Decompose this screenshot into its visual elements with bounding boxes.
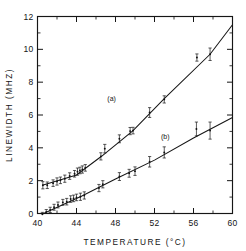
data-point: [81, 169, 83, 171]
data-point: [209, 130, 211, 132]
data-point: [129, 130, 131, 132]
data-point: [118, 176, 120, 178]
axes-frame: [38, 17, 233, 214]
data-point: [77, 171, 79, 173]
data-point: [69, 175, 71, 177]
data-point: [76, 196, 78, 198]
y-tick-label: 8: [28, 77, 33, 87]
data-point: [45, 211, 47, 213]
data-point: [84, 167, 86, 169]
y-tick-label: 4: [28, 143, 33, 153]
x-axis-tick-labels: 404448525660: [32, 218, 237, 228]
x-axis-ticks: [38, 17, 233, 214]
y-tick-label: 6: [28, 110, 33, 120]
data-point: [56, 181, 58, 183]
data-point: [52, 182, 54, 184]
data-point: [66, 201, 68, 203]
data-point: [42, 184, 44, 186]
data-point: [163, 151, 165, 153]
data-point: [64, 178, 66, 180]
y-tick-label: 12: [23, 12, 33, 22]
curve-annotations: (a)(b): [107, 95, 169, 141]
data-point: [149, 112, 151, 114]
data-point: [163, 98, 165, 100]
x-tick-label: 56: [188, 218, 198, 228]
data-point: [134, 170, 136, 172]
plot-frame: [38, 17, 233, 214]
data-point: [53, 206, 55, 208]
data-point: [62, 201, 64, 203]
data-point: [46, 184, 48, 186]
data-point: [209, 53, 211, 55]
data-point: [104, 148, 106, 150]
data-point: [196, 57, 198, 59]
x-axis-label: TEMPERATURE (°C): [83, 237, 186, 247]
data-point: [59, 179, 61, 181]
x-tick-label: 48: [110, 218, 120, 228]
data-point: [102, 183, 104, 185]
data-point: [79, 170, 81, 172]
figure-container: 404448525660 024681012 (a)(b) TEMPERATUR…: [0, 0, 246, 251]
data-point: [83, 194, 85, 196]
fit-line: [42, 25, 232, 186]
x-tick-label: 44: [71, 218, 81, 228]
data-point: [74, 173, 76, 175]
data-point: [132, 130, 134, 132]
data-point: [195, 128, 197, 130]
data-point: [41, 213, 43, 215]
data-point: [118, 138, 120, 140]
data-point: [100, 155, 102, 157]
data-point: [79, 196, 81, 198]
curve-label: (b): [161, 133, 170, 141]
curve-label: (a): [107, 95, 116, 103]
x-tick-label: 52: [149, 218, 159, 228]
y-axis-label: LINEWIDTH (MHZ): [4, 68, 14, 162]
data-point: [149, 161, 151, 163]
linewidth-vs-temperature-chart: 404448525660 024681012 (a)(b) TEMPERATUR…: [0, 0, 246, 251]
data-point: [128, 172, 130, 174]
data-point: [49, 209, 51, 211]
data-point: [70, 198, 72, 200]
data-point: [57, 204, 59, 206]
x-tick-label: 40: [32, 218, 42, 228]
series-a: [41, 25, 232, 189]
data-series-group: [41, 25, 233, 216]
y-axis-tick-labels: 024681012: [23, 12, 33, 219]
data-point: [73, 197, 75, 199]
y-tick-label: 2: [28, 176, 33, 186]
y-axis-ticks: [38, 17, 233, 214]
y-tick-label: 0: [28, 209, 33, 219]
y-tick-label: 10: [23, 44, 33, 54]
series-b: [41, 117, 233, 215]
x-tick-label: 60: [227, 218, 237, 228]
data-point: [98, 187, 100, 189]
